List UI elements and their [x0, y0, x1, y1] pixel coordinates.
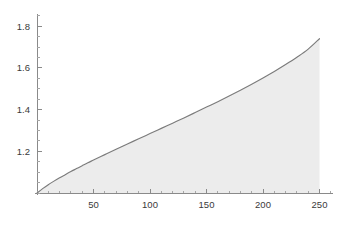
y-axis-tick-labels: 1.21.41.61.8	[17, 21, 30, 157]
x-tick-label: 250	[312, 199, 328, 210]
area-fill-group	[37, 39, 320, 193]
y-tick-label: 1.4	[17, 104, 30, 115]
x-tick-label: 200	[255, 199, 271, 210]
x-tick-label: 100	[142, 199, 158, 210]
x-axis-tick-labels: 50100150200250	[88, 199, 327, 210]
area-fill	[37, 39, 320, 193]
x-tick-label: 50	[88, 199, 99, 210]
x-tick-label: 150	[199, 199, 215, 210]
y-tick-label: 1.2	[17, 146, 30, 157]
chart-canvas: 50100150200250 1.21.41.61.8	[0, 0, 346, 226]
y-tick-label: 1.8	[17, 21, 30, 32]
y-axis-ticks	[37, 16, 42, 193]
chart-plot: 50100150200250 1.21.41.61.8	[0, 0, 346, 226]
y-tick-label: 1.6	[17, 62, 30, 73]
